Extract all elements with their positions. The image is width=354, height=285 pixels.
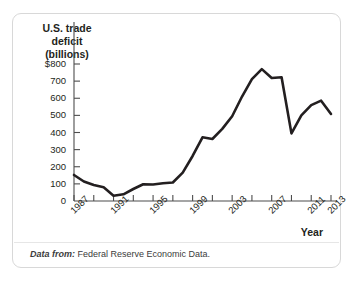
- source-note-prefix: Data from:: [30, 249, 75, 259]
- y-tick-label: 700: [20, 75, 66, 86]
- chart-plot-area: [13, 14, 342, 269]
- y-tick-label: 0: [20, 195, 66, 206]
- y-tick-label: 400: [20, 127, 66, 138]
- figure-frame: U.S. trade deficit (billions) $800700600…: [12, 13, 341, 268]
- y-tick-label: 100: [20, 178, 66, 189]
- line-chart-svg: [13, 14, 342, 269]
- x-axis-title: Year: [301, 226, 323, 238]
- source-note-text: Federal Reserve Economic Data.: [78, 249, 211, 259]
- trade-deficit-line: [74, 69, 331, 196]
- y-tick-label: 300: [20, 144, 66, 155]
- y-tick-label: 600: [20, 92, 66, 103]
- footnote-divider: [14, 242, 339, 243]
- source-note: Data from: Federal Reserve Economic Data…: [30, 249, 210, 259]
- y-tick-label: 200: [20, 161, 66, 172]
- y-tick-label: 500: [20, 109, 66, 120]
- y-tick-label: $800: [20, 58, 66, 69]
- y-axis-ticks: [74, 64, 80, 184]
- chart-axes: [74, 22, 337, 201]
